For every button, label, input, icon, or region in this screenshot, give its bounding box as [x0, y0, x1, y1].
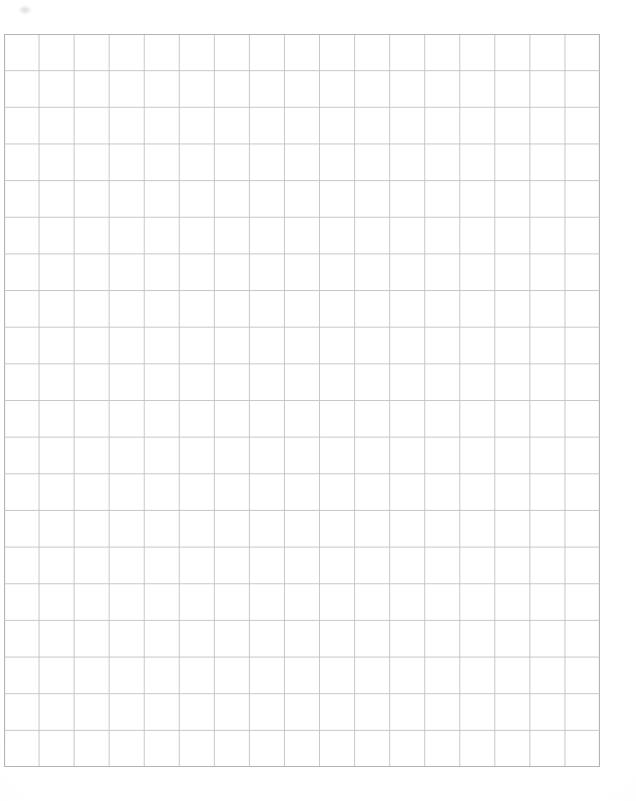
paper-sheet — [0, 0, 636, 801]
grid-lines-svg — [4, 34, 600, 767]
graph-paper-grid — [4, 34, 600, 767]
scan-smudge — [18, 5, 32, 15]
